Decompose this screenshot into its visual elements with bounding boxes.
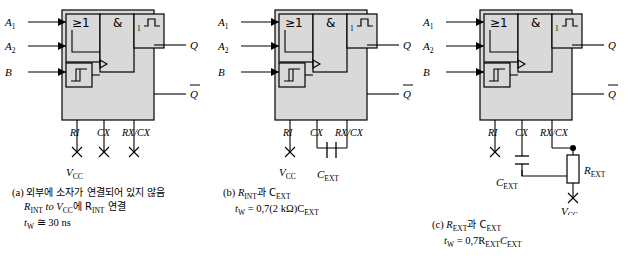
or-gate-label: ≥1 <box>490 16 508 30</box>
pin-label-ri: RI <box>282 127 293 138</box>
and-gate-label: & <box>113 16 122 30</box>
label-q: Q <box>190 39 198 51</box>
pin-label-ri: RI <box>69 127 80 138</box>
and-gate-label: & <box>326 16 335 30</box>
label-qbar: Q <box>190 88 198 100</box>
caption-c: (c) REXT과 CEXT tW = 0,7REXTCEXT <box>432 218 522 250</box>
schmitt-trigger-box <box>279 63 305 87</box>
label-cext: CEXT <box>317 168 339 183</box>
pin-label-rxcx: RX/CX <box>334 127 364 138</box>
wire-cext-to-node <box>522 164 573 176</box>
junction-dot <box>570 145 576 151</box>
caption-b: (b) RINT과 CEXT tW = 0,7(2 kΩ)CEXT <box>223 186 319 218</box>
label-a1: A1 <box>217 16 229 31</box>
label-a1: A1 <box>4 16 16 31</box>
panel-c: ≥1 & 1 A1 A2 B Q Q RI CX <box>418 0 633 269</box>
caption-a: (a) 외부에 소자가 연결되어 있지 않음 RINT to VCC에 RINT… <box>12 186 165 233</box>
label-a2: A2 <box>422 40 434 55</box>
label-qbar: Q <box>403 88 411 100</box>
label-a2: A2 <box>217 40 229 55</box>
label-a1: A1 <box>422 16 434 31</box>
pin-label-rxcx: RX/CX <box>121 127 151 138</box>
caption-a-line1: (a) 외부에 소자가 연결되어 있지 않음 <box>12 186 165 200</box>
label-rext: REXT <box>583 164 606 179</box>
label-b: B <box>423 66 430 78</box>
label-b: B <box>5 66 12 78</box>
label-q: Q <box>608 39 616 51</box>
caption-c-line2: tW = 0,7REXTCEXT <box>444 234 522 250</box>
pin-label-ri: RI <box>487 127 498 138</box>
pin-label-rxcx: RX/CX <box>539 127 569 138</box>
and-gate-label: & <box>531 16 540 30</box>
or-gate-label: ≥1 <box>72 16 90 30</box>
or-gate-label: ≥1 <box>285 16 303 30</box>
panel-b-schematic: ≥1 & 1 A1 A2 B Q Q RI CX <box>213 0 418 200</box>
label-cext: CEXT <box>496 176 518 191</box>
caption-a-line2: RINT to VCC에 RINT 연결 <box>24 200 165 216</box>
label-qbar: Q <box>608 88 616 100</box>
panel-a: ≥1 & 1 <box>0 0 213 269</box>
schmitt-trigger-box <box>484 63 510 87</box>
label-q: Q <box>403 39 411 51</box>
panel-c-schematic: ≥1 & 1 A1 A2 B Q Q RI CX <box>418 0 633 215</box>
panel-a-schematic: ≥1 & 1 <box>0 0 213 200</box>
pin-x-marks <box>72 147 139 157</box>
label-vcc: VCC <box>561 205 578 215</box>
label-vcc: VCC <box>66 166 83 181</box>
caption-b-line1: (b) RINT과 CEXT <box>223 186 319 202</box>
one-shot-label: 1 <box>350 24 354 33</box>
one-shot-label: 1 <box>555 24 559 33</box>
one-shot-label: 1 <box>137 24 141 33</box>
label-a2: A2 <box>4 40 16 55</box>
caption-c-line1: (c) REXT과 CEXT <box>432 218 522 234</box>
figure-container: ≥1 & 1 <box>0 0 633 269</box>
caption-b-line2: tW = 0,7(2 kΩ)CEXT <box>235 202 319 218</box>
panel-b: ≥1 & 1 A1 A2 B Q Q RI CX <box>213 0 418 269</box>
resistor-body <box>567 155 579 183</box>
schmitt-trigger-box <box>66 63 92 87</box>
label-vcc: VCC <box>279 166 296 181</box>
caption-a-line3: tW ≅ 30 ns <box>24 216 165 232</box>
label-b: B <box>218 66 225 78</box>
